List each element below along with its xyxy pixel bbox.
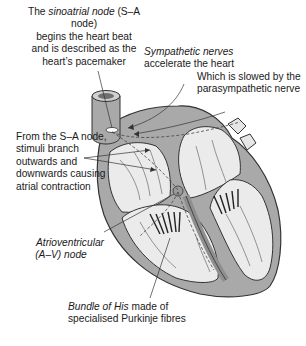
label-sa-node: The sinoatrial node (S–A node) begins th… xyxy=(16,6,152,68)
label-branching: From the S–A node, stimuli branch outwar… xyxy=(16,131,116,193)
sa-node-term: sinoatrial node xyxy=(48,6,114,17)
sympathetic-line2: accelerate the heart xyxy=(144,58,234,69)
sa-node-line3: and is described as the xyxy=(32,43,137,54)
av-node xyxy=(173,186,183,196)
parasympathetic-line2: parasympathetic nerve xyxy=(197,83,300,94)
sympathetic-term: Sympathetic nerves xyxy=(144,46,233,57)
label-av-node: Atrioventricular (A–V) node xyxy=(30,237,110,262)
right-atrium xyxy=(108,143,170,213)
branching-line3: outwards and xyxy=(16,156,77,167)
label-sympathetic: Sympathetic nerves accelerate the heart xyxy=(144,46,264,71)
sa-node-text-pre: The xyxy=(28,6,48,17)
pulmonary-vein-upper xyxy=(228,118,246,134)
branching-line5: atrial contraction xyxy=(16,181,91,192)
av-node-line1: Atrioventricular xyxy=(36,237,104,248)
label-parasympathetic: Which is slowed by the parasympathetic n… xyxy=(197,71,306,96)
sa-node-line4: heart’s pacemaker xyxy=(42,56,126,67)
parasympathetic-line1: Which is slowed by the xyxy=(197,71,301,82)
bundle-of-his-post: made of xyxy=(129,301,169,312)
label-bundle-of-his: Bundle of His made of specialised Purkin… xyxy=(68,301,208,326)
branching-line2: stimuli branch xyxy=(16,143,79,154)
sa-node-line2: begins the heart beat xyxy=(36,31,132,42)
bundle-of-his-term: Bundle of His xyxy=(68,301,129,312)
av-node-line2: (A–V) node xyxy=(35,249,87,261)
branching-line1: From the S–A node, xyxy=(16,131,107,142)
bundle-of-his-line2: specialised Purkinje fibres xyxy=(68,313,186,324)
branching-line4: downwards causing xyxy=(16,168,105,179)
